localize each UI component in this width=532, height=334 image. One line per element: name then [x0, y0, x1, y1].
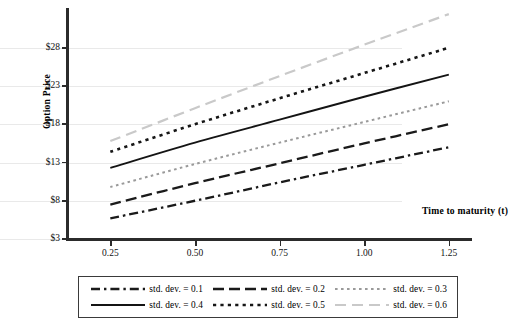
x-axis-title: Time to maturity (t) [400, 205, 530, 216]
y-tick-label: $18 [0, 118, 60, 128]
x-tick-mark [449, 240, 451, 246]
y-tick-label: $8 [0, 195, 60, 205]
x-tick-label: 0.25 [80, 248, 140, 258]
legend-label: std. dev. = 0.5 [271, 300, 325, 310]
gridline [0, 48, 402, 49]
x-tick-label: 0.50 [165, 248, 225, 258]
series-line [110, 101, 449, 187]
y-axis-line [66, 8, 69, 240]
legend-line-sample [90, 284, 146, 294]
legend-item: std. dev. = 0.5 [207, 297, 329, 313]
gridline [0, 86, 402, 87]
series-line [110, 14, 449, 141]
x-axis-line [66, 238, 472, 241]
legend-label: std. dev. = 0.2 [271, 284, 325, 294]
legend-line-sample [212, 284, 268, 294]
y-tick-label: $3 [0, 233, 60, 243]
y-tick-label: $23 [0, 80, 60, 90]
y-axis-title: Option Price [41, 54, 52, 150]
legend: std. dev. = 0.1std. dev. = 0.2std. dev. … [78, 276, 458, 318]
legend-item: std. dev. = 0.1 [85, 281, 207, 297]
x-tick-mark [364, 240, 366, 246]
legend-label: std. dev. = 0.6 [393, 300, 447, 310]
legend-item: std. dev. = 0.2 [207, 281, 329, 297]
legend-item: std. dev. = 0.3 [329, 281, 451, 297]
x-tick-mark [195, 240, 197, 246]
series-line [110, 75, 449, 168]
legend-label: std. dev. = 0.1 [149, 284, 203, 294]
chart-figure: Option Price Time to maturity (t) $3$8$1… [0, 0, 532, 334]
y-tick-label: $13 [0, 157, 60, 167]
legend-line-sample [212, 300, 268, 310]
gridline [0, 124, 402, 125]
x-tick-label: 0.75 [250, 248, 310, 258]
series-line [110, 48, 449, 152]
legend-label: std. dev. = 0.3 [393, 284, 447, 294]
legend-line-sample [90, 300, 146, 310]
legend-line-sample [334, 300, 390, 310]
legend-line-sample [334, 284, 390, 294]
legend-item: std. dev. = 0.6 [329, 297, 451, 313]
x-tick-label: 1.25 [419, 248, 479, 258]
gridline [0, 201, 402, 202]
y-tick-label: $28 [0, 42, 60, 52]
legend-item: std. dev. = 0.4 [85, 297, 207, 313]
series-line [110, 147, 449, 218]
series-line [110, 124, 449, 204]
legend-label: std. dev. = 0.4 [149, 300, 203, 310]
gridline [0, 163, 402, 164]
x-tick-label: 1.00 [334, 248, 394, 258]
x-tick-mark [280, 240, 282, 246]
x-tick-mark [110, 240, 112, 246]
